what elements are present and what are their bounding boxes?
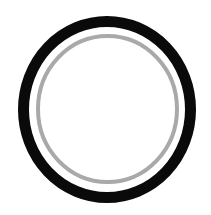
outer-black-ring — [24, 22, 191, 198]
rings-graphic — [0, 0, 211, 215]
inner-gray-ring — [38, 36, 177, 182]
concentric-rings-figure — [0, 0, 211, 215]
